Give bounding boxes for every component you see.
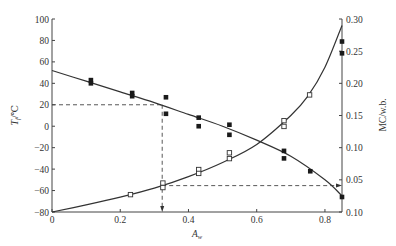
right-tick-label: 0.20 [346,79,363,89]
data-markers [89,39,345,199]
filled-square-marker [340,39,345,44]
left-tick-label: −40 [34,165,49,175]
left-tick-label: 0 [44,122,49,132]
open-square-marker [161,181,165,185]
open-square-marker [227,151,231,155]
x-tick-label: 0.2 [114,215,126,225]
x-tick-label: 0 [50,215,55,225]
open-square-marker [197,171,201,175]
left-tick-label: 80 [40,36,50,46]
left-tick-label: −80 [34,208,49,218]
right-tick-label: 0.10 [346,208,363,218]
filled-square-marker [308,169,313,174]
filled-square-marker [227,122,232,127]
filled-square-marker [130,94,135,99]
filled-square-marker [164,95,169,100]
tf-fit-curve [52,70,342,195]
open-square-marker [282,118,286,122]
x-tick-label: 0.6 [251,215,263,225]
left-y-axis-label: Tf/℃ [10,104,21,125]
x-axis-label: Aw [191,229,203,240]
arrow-down-icon [160,206,164,212]
filled-square-marker [196,115,201,120]
right-tick-label: 0.15 [346,111,363,121]
open-square-marker [307,93,311,97]
right-tick-label: 0.05 [346,175,363,185]
filled-square-marker [282,156,287,161]
filled-square-marker [196,124,201,129]
left-tick-label: −20 [34,143,49,153]
open-square-marker [227,156,231,160]
left-tick-label: 100 [35,15,50,25]
right-tick-label: 0.30 [346,15,363,25]
x-tick-label: 0.4 [183,215,195,225]
filled-square-marker [89,81,94,86]
left-tick-label: 40 [40,79,50,89]
open-square-marker [282,124,286,128]
right-y-axis-label: MC/w.b. [378,98,388,131]
left-tick-label: 20 [40,100,50,110]
guide-lines [52,105,342,212]
filled-square-marker [340,195,345,200]
filled-square-marker [282,149,287,154]
right-tick-label: 0.25 [346,47,363,57]
filled-square-marker [340,51,345,56]
open-square-marker [128,192,132,196]
filled-square-marker [164,111,169,116]
arrow-right-icon [336,184,342,188]
left-tick-label: 60 [40,57,50,67]
right-tick-label: 0.10 [346,143,363,153]
open-square-marker [161,185,165,189]
dual-axis-chart: 100806040200−20−40−60−800.300.250.200.15… [0,0,396,246]
x-tick-label: 0.8 [319,215,331,225]
filled-square-marker [227,133,232,138]
left-tick-label: −60 [34,186,49,196]
